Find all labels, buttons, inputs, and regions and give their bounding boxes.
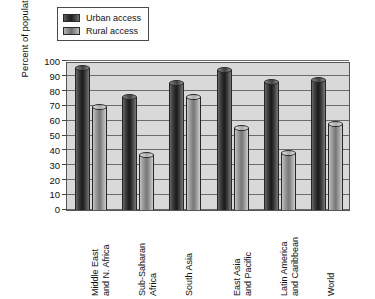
bar-cap [234, 125, 249, 131]
x-category-label-line1: Sub-Saharan [137, 214, 148, 296]
bar-body [217, 70, 232, 210]
legend-item-urban-access: Urban access [63, 11, 141, 24]
y-axis-tick-labels: 100 90 80 70 60 50 40 30 20 10 0 [28, 55, 64, 218]
y-tick-100: 100 [44, 57, 60, 67]
bar-body [75, 68, 90, 210]
x-category-label-line2: Africa [148, 214, 159, 296]
bar-rural [139, 152, 154, 210]
bar-group [264, 63, 296, 210]
bar-urban [122, 94, 137, 210]
bar-body [234, 128, 249, 210]
x-category-label-line1: World [326, 214, 337, 296]
y-tick-30: 30 [49, 161, 60, 171]
bar-group [75, 63, 107, 210]
bars-layer [67, 63, 349, 210]
legend-label-urban-access: Urban access [86, 13, 141, 23]
bar-urban [264, 79, 279, 210]
y-tick-40: 40 [49, 146, 60, 156]
y-tickmark-30 [62, 164, 67, 165]
chart-legend: Urban access Rural access [57, 7, 149, 41]
y-tick-10: 10 [49, 190, 60, 200]
bar-body [139, 155, 154, 210]
bar-cap [122, 94, 137, 100]
y-tick-80: 80 [49, 87, 60, 97]
y-tickmark-10 [62, 194, 67, 195]
bar-body [92, 107, 107, 210]
legend-item-rural-access: Rural access [63, 24, 141, 37]
y-tick-60: 60 [49, 116, 60, 126]
x-category-label-line1: Middle East [90, 214, 101, 296]
y-tickmark-90 [62, 75, 67, 76]
bar-group [217, 63, 249, 210]
legend-swatch-urban-access [63, 14, 80, 22]
legend-swatch-rural-access [63, 27, 80, 35]
x-category-label-line2: and Caribbean [290, 214, 301, 296]
y-tick-50: 50 [49, 131, 60, 141]
bar-body [186, 97, 201, 210]
x-axis-category-labels: Middle Eastand N. AfricaSub-SaharanAfric… [66, 214, 350, 299]
bar-rural [328, 121, 343, 210]
gridline-100 [67, 60, 349, 61]
x-category-label-line2: and N. Africa [100, 214, 111, 296]
bar-cap [217, 67, 232, 73]
y-tickmark-50 [62, 135, 67, 136]
y-tickmark-80 [62, 90, 67, 91]
bar-group [169, 63, 201, 210]
y-tick-20: 20 [49, 176, 60, 186]
bar-body [281, 153, 296, 210]
bar-body [122, 97, 137, 210]
bar-body [311, 80, 326, 210]
y-tickmark-100 [62, 60, 67, 61]
bar-body [264, 82, 279, 210]
bar-urban [217, 67, 232, 210]
bar-urban [311, 77, 326, 210]
plot-area [66, 62, 350, 211]
y-tick-0: 0 [55, 205, 60, 215]
y-tickmark-20 [62, 179, 67, 180]
bar-urban [169, 80, 184, 210]
bar-body [328, 124, 343, 210]
y-tick-90: 90 [49, 72, 60, 82]
y-tickmark-70 [62, 105, 67, 106]
legend-label-rural-access: Rural access [86, 26, 138, 36]
bar-rural [234, 125, 249, 210]
x-category-label: World [315, 214, 375, 236]
bar-cap [328, 121, 343, 127]
bar-cap [186, 94, 201, 100]
bar-rural [186, 94, 201, 210]
bar-rural [92, 104, 107, 210]
y-tick-70: 70 [49, 101, 60, 111]
y-tickmark-40 [62, 149, 67, 150]
bar-cap [139, 152, 154, 158]
x-category-label-line1: South Asia [184, 214, 195, 296]
x-category-label-line1: Latin America [279, 214, 290, 296]
y-tickmark-0 [62, 209, 67, 210]
bar-urban [75, 65, 90, 210]
bar-chart-figure: Urban access Rural access Percent of pop… [0, 0, 375, 299]
x-category-label-line2: and Pacific [242, 214, 253, 296]
bar-group [311, 63, 343, 210]
bar-cap [264, 79, 279, 85]
y-tickmark-60 [62, 120, 67, 121]
bar-group [122, 63, 154, 210]
bar-rural [281, 150, 296, 210]
bar-body [169, 83, 184, 210]
x-category-label-line1: East Asia [232, 214, 243, 296]
